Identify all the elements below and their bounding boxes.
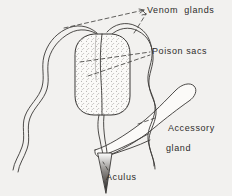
leader-venom-left — [64, 10, 144, 28]
label-accessory-gland: Accessory gland — [156, 113, 215, 173]
label-poison-sacs: Poison sacs — [152, 46, 207, 56]
sting-apparatus-figure: Venom glands Poison sacs Accessory gland… — [0, 0, 232, 196]
leader-arrowheads — [139, 9, 146, 15]
label-aculus: Aculus — [106, 172, 137, 182]
leader-venom-right — [134, 14, 146, 33]
label-venom-glands: Venom glands — [147, 5, 214, 15]
poison-sacs — [75, 34, 130, 115]
label-accessory-gland-line1: Accessory — [168, 123, 215, 133]
label-accessory-gland-line2: gland — [156, 143, 215, 153]
